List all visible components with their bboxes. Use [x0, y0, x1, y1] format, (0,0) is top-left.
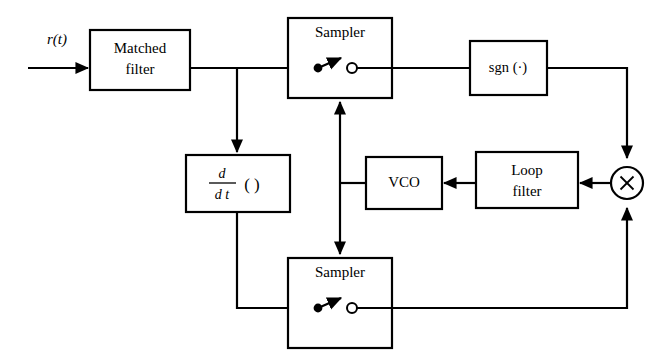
- sampler-top-label: Sampler: [315, 24, 365, 40]
- sgn-label: sgn (·): [489, 59, 527, 76]
- matched-filter-label-line2: filter: [125, 61, 154, 77]
- derivative-denominator: d t: [215, 187, 231, 202]
- block-multiplier: [611, 167, 643, 199]
- vco-label: VCO: [388, 174, 420, 190]
- sampler-bottom-label: Sampler: [315, 264, 365, 280]
- wire-sgn-to-multiplier: [547, 68, 627, 158]
- derivative-argument: ( ): [244, 175, 260, 194]
- input-signal-label: r(t): [47, 31, 67, 48]
- switch-bottom-open-terminal: [347, 303, 357, 313]
- loop-filter-label-line1: Loop: [511, 162, 543, 178]
- block-derivative: [186, 155, 290, 212]
- matched-filter-label-line1: Matched: [114, 40, 167, 56]
- derivative-numerator: d: [219, 166, 227, 181]
- loop-filter-label-line2: filter: [512, 183, 541, 199]
- block-diagram-figure: r(t) Matched filter Sampler sgn (·) d: [0, 0, 664, 360]
- wire-sampler-bottom-to-multiplier: [392, 208, 627, 308]
- diagram-canvas: r(t) Matched filter Sampler sgn (·) d: [0, 0, 664, 360]
- block-loop-filter: [476, 152, 578, 208]
- switch-top-open-terminal: [347, 63, 357, 73]
- block-matched-filter: [90, 30, 190, 90]
